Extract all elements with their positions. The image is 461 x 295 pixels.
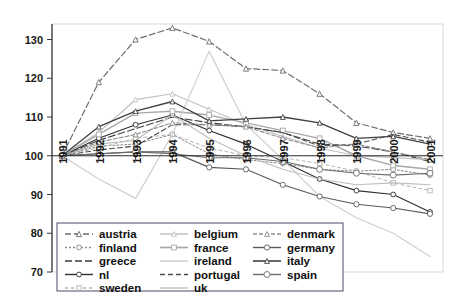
x-tick-label: 1995: [204, 139, 216, 163]
x-tick-label: 2000: [388, 139, 400, 163]
marker-denmark: [170, 120, 175, 125]
marker-italy: [207, 118, 212, 123]
x-tick-label: 1994: [167, 138, 179, 163]
marker-belgium: [207, 107, 212, 112]
legend-label-portugal: portugal: [194, 269, 240, 281]
y-tick-label: 120: [25, 72, 43, 84]
x-tick-label: 1991: [57, 139, 69, 163]
marker-nl: [391, 192, 396, 197]
marker-spain: [353, 170, 359, 176]
marker-italy: [280, 115, 285, 120]
marker-italy: [96, 124, 101, 129]
legend-label-sweden: sweden: [99, 282, 141, 294]
chart-canvas: 708090100110120130 199119921993199419951…: [0, 0, 461, 295]
y-tick-label: 80: [31, 227, 43, 239]
legend-label-nl: nl: [99, 269, 109, 281]
legend-label-austria: austria: [99, 228, 137, 240]
marker-germany: [317, 194, 322, 199]
marker-austria: [317, 91, 322, 96]
marker-nl: [133, 122, 138, 127]
marker-italy: [133, 109, 138, 114]
legend-marker-sweden: [77, 286, 81, 290]
marker-germany: [207, 165, 212, 170]
marker-belgium: [170, 91, 175, 96]
x-tick-label: 1996: [241, 139, 253, 163]
marker-germany: [280, 182, 285, 187]
legend-label-spain: spain: [287, 269, 317, 281]
legend-marker-france: [172, 245, 177, 250]
x-tick-label: 1999: [351, 139, 363, 163]
marker-spain: [427, 170, 433, 176]
legend-label-denmark: denmark: [287, 228, 336, 240]
legend-label-ireland: ireland: [194, 255, 232, 267]
legend-label-uk: uk: [194, 282, 208, 294]
marker-nl: [354, 188, 359, 193]
x-tick-label: 2001: [425, 139, 437, 163]
legend-label-belgium: belgium: [194, 228, 238, 240]
marker-france: [207, 113, 212, 118]
marker-sweden: [428, 188, 432, 192]
chart-legend: austriafinlandgreecenlswedenbelgiumfranc…: [57, 223, 343, 294]
legend-label-greece: greece: [99, 255, 136, 267]
marker-spain: [317, 166, 323, 172]
marker-italy: [317, 120, 322, 125]
marker-germany: [427, 211, 432, 216]
marker-germany: [391, 205, 396, 210]
y-tick-label: 110: [25, 111, 43, 123]
marker-france: [170, 109, 175, 114]
legend-label-finland: finland: [99, 242, 137, 254]
x-tick-label: 1997: [278, 139, 290, 163]
legend-label-france: france: [194, 242, 229, 254]
legend-marker-spain: [264, 272, 270, 278]
marker-belgium: [133, 97, 138, 102]
marker-italy: [244, 117, 249, 122]
legend-label-germany: germany: [287, 242, 336, 254]
marker-spain: [390, 172, 396, 178]
marker-italy: [170, 99, 175, 104]
legend-marker-nl: [77, 272, 82, 277]
marker-nl: [207, 128, 212, 133]
line-chart: 708090100110120130 199119921993199419951…: [0, 0, 461, 295]
legend-marker-germany: [264, 245, 269, 250]
marker-france: [96, 132, 101, 137]
legend-marker-finland: [77, 245, 82, 250]
marker-austria: [207, 39, 212, 44]
marker-germany: [243, 167, 248, 172]
y-tick-label: 100: [25, 150, 43, 162]
marker-denmark: [133, 132, 138, 137]
y-tick-label: 130: [25, 34, 43, 46]
x-tick-label: 1992: [94, 139, 106, 163]
series-line-austria: [62, 28, 430, 156]
x-tick-label: 1993: [131, 139, 143, 163]
y-tick-label: 70: [31, 266, 43, 278]
marker-germany: [354, 202, 359, 207]
x-tick-label: 1998: [315, 139, 327, 163]
legend-label-italy: italy: [287, 255, 311, 267]
y-axis-labels: 708090100110120130: [25, 34, 43, 279]
y-tick-label: 90: [31, 189, 43, 201]
